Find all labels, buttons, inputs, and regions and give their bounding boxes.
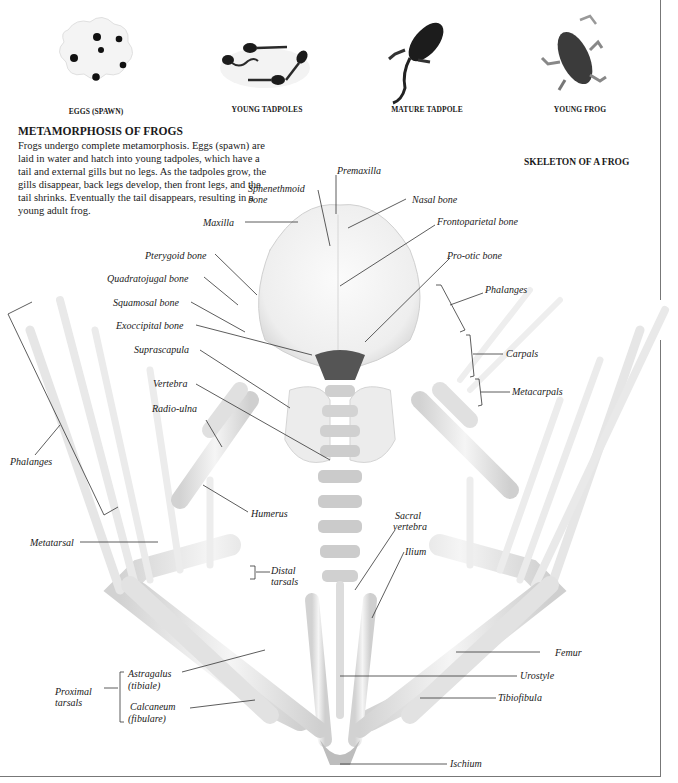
label-nasal-bone: Nasal bone (412, 194, 457, 205)
label-femur: Femur (555, 647, 582, 658)
label-calcaneum-2: (fibulare) (128, 713, 166, 724)
label-radio-ulna: Radio-ulna (152, 403, 197, 414)
label-urostyle: Urostyle (520, 670, 554, 681)
label-pro-otic-bone: Pro-otic bone (447, 250, 502, 261)
label-distal-2: tarsals (271, 576, 298, 587)
label-ilium: Ilium (405, 546, 426, 557)
label-phalanges-fore: Phalanges (485, 284, 527, 295)
label-maxilla: Maxilla (203, 217, 234, 228)
label-vertebra: Vertebra (153, 378, 187, 389)
label-sphenethmoid-1: Sphenethmoid (248, 183, 305, 194)
label-humerus: Humerus (251, 508, 288, 519)
vertebral-column (318, 385, 362, 582)
label-frontoparietal-bone: Frontoparietal bone (437, 216, 518, 227)
label-premaxilla: Premaxilla (337, 165, 381, 176)
label-tibiofibula: Tibiofibula (498, 692, 542, 703)
label-pterygoid-bone: Pterygoid bone (145, 250, 206, 261)
label-squamosal-bone: Squamosal bone (113, 297, 179, 308)
label-proximal-1: Proximal (55, 686, 92, 697)
label-metacarpals: Metacarpals (512, 386, 563, 397)
label-sacral-2: vertebra (393, 521, 427, 532)
frog-skeleton-diagram (0, 0, 678, 783)
label-exoccipital-bone: Exoccipital bone (116, 320, 183, 331)
label-phalanges-hind: Phalanges (10, 456, 52, 467)
label-carpals: Carpals (506, 348, 538, 359)
label-astragalus-1: Astragalus (128, 668, 171, 679)
label-proximal-2: tarsals (55, 697, 82, 708)
label-suprascapula: Suprascapula (134, 344, 189, 355)
label-quadratojugal-bone: Quadratojugal bone (107, 273, 188, 284)
skeleton-bones (30, 205, 665, 765)
label-ischium: Ischium (450, 758, 482, 769)
label-calcaneum-1: Calcaneum (130, 701, 176, 712)
label-sphenethmoid-2: bone (248, 194, 267, 205)
label-distal-1: Distal (271, 565, 295, 576)
label-metatarsal: Metatarsal (30, 537, 74, 548)
label-sacral-1: Sacral (395, 510, 421, 521)
label-astragalus-2: (tibiale) (128, 680, 160, 691)
